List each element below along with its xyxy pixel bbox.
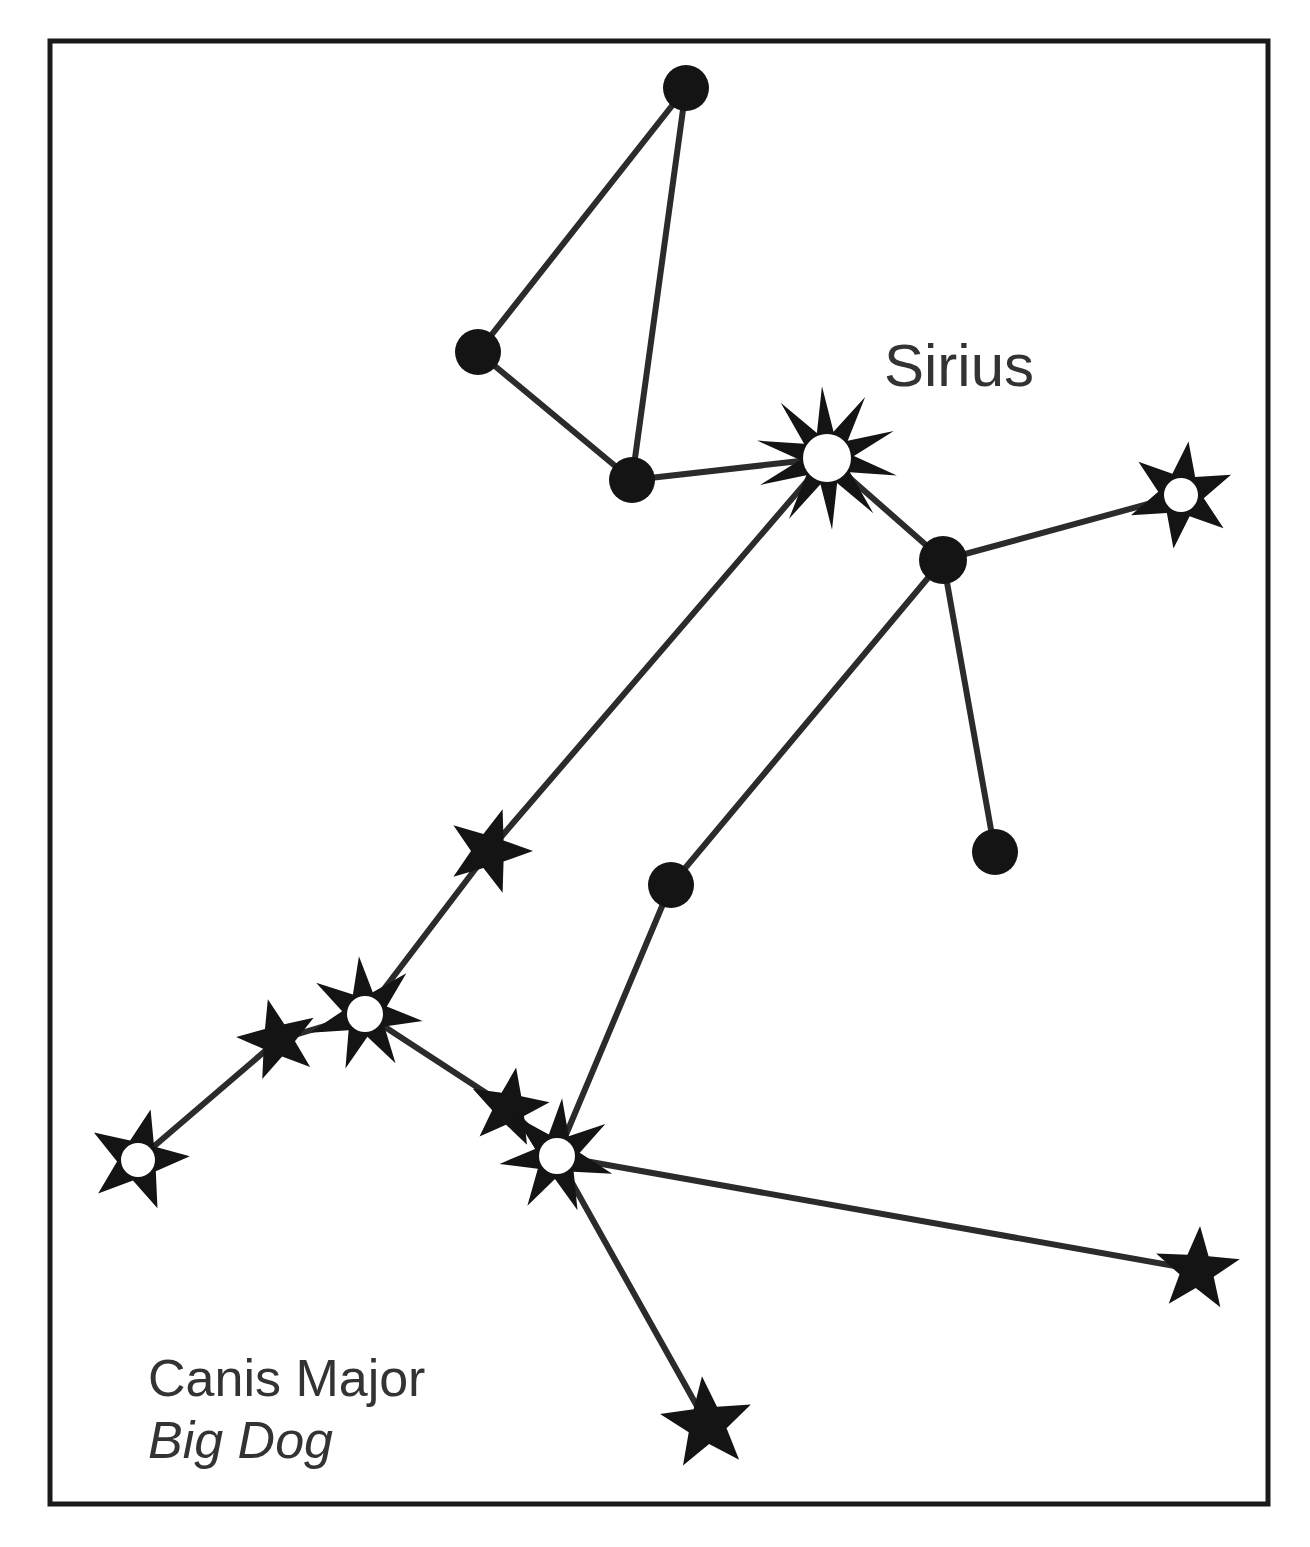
star-node-eta-lower <box>972 829 1018 875</box>
star-core-icon <box>121 1143 155 1177</box>
star-node-iota-cmaj <box>609 457 655 503</box>
star-core-icon <box>803 434 851 482</box>
constellation-lines-layer <box>138 88 1197 1424</box>
star-node-mid-node <box>648 862 694 908</box>
constellation-line <box>557 1156 707 1424</box>
star-node-delta-cmaj <box>310 956 422 1068</box>
star-burst-icon <box>660 1376 751 1465</box>
constellation-common-name-label: Big Dog <box>148 1411 333 1469</box>
constellation-name-label: Canis Major <box>148 1349 425 1407</box>
star-node-theta-cmaj <box>663 65 709 111</box>
star-dot-icon <box>972 829 1018 875</box>
constellation-line <box>943 560 995 852</box>
constellation-figure: Sirius Canis Major Big Dog <box>0 0 1310 1547</box>
star-node-gamma-cmaj <box>455 329 501 375</box>
star-core-icon <box>1164 478 1198 512</box>
constellation-line <box>478 352 632 480</box>
star-dot-icon <box>609 457 655 503</box>
star-dot-icon <box>648 862 694 908</box>
star-node-foot-star <box>660 1376 751 1465</box>
constellation-line <box>138 1040 278 1160</box>
star-node-theta-right <box>1131 442 1231 549</box>
star-dot-icon <box>455 329 501 375</box>
constellation-line <box>671 560 943 885</box>
constellation-diagram: Sirius Canis Major Big Dog <box>0 0 1310 1547</box>
constellation-stars-layer <box>94 65 1240 1466</box>
constellation-line <box>557 885 671 1156</box>
star-dot-icon <box>663 65 709 111</box>
chart-frame-border <box>50 41 1268 1504</box>
star-node-hub-node <box>919 536 967 584</box>
star-node-sirius <box>757 386 897 530</box>
star-dot-icon <box>919 536 967 584</box>
constellation-line <box>489 458 827 851</box>
star-core-icon <box>347 996 383 1032</box>
constellation-line <box>557 1156 1197 1270</box>
star-core-icon <box>539 1138 575 1174</box>
sirius-label: Sirius <box>884 332 1034 399</box>
